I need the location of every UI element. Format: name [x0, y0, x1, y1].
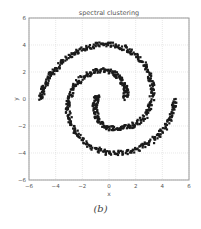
data-point	[153, 142, 155, 144]
data-point	[165, 123, 167, 125]
data-point	[129, 48, 131, 50]
data-point	[127, 149, 129, 151]
data-point	[110, 45, 112, 47]
data-point	[123, 49, 125, 51]
data-point	[83, 142, 85, 144]
data-point	[98, 151, 100, 153]
spectral-clustering-chart: −6−4−20246−6−4−20246 spectral clustering…	[0, 0, 201, 229]
data-point	[94, 68, 96, 70]
data-point	[110, 129, 112, 131]
data-point	[121, 45, 123, 47]
data-point	[62, 61, 64, 63]
x-axis-label: x	[107, 190, 111, 197]
data-point	[144, 146, 146, 148]
data-point	[92, 69, 94, 71]
data-point	[143, 65, 145, 67]
data-point	[102, 67, 104, 69]
data-point	[72, 86, 74, 88]
data-point	[96, 97, 98, 99]
data-point	[85, 45, 87, 47]
data-point	[77, 76, 79, 78]
data-point	[111, 72, 113, 74]
data-point	[95, 45, 97, 47]
data-point	[153, 84, 155, 86]
data-point	[94, 71, 96, 73]
data-point	[58, 66, 60, 68]
data-point	[42, 85, 44, 87]
data-point	[127, 91, 129, 93]
data-point	[136, 120, 138, 122]
data-point	[69, 124, 71, 126]
data-point	[146, 113, 148, 115]
data-point	[172, 100, 174, 102]
x-tick-label: 6	[187, 183, 191, 189]
data-point	[137, 147, 139, 149]
chart-title: spectral clustering	[79, 9, 139, 17]
data-point	[83, 48, 85, 50]
data-point	[150, 108, 152, 110]
data-point	[99, 149, 101, 151]
data-point	[120, 82, 122, 84]
data-point	[69, 122, 71, 124]
data-point	[131, 127, 133, 129]
data-point	[170, 120, 172, 122]
data-point	[139, 150, 141, 152]
data-point	[139, 56, 141, 58]
data-point	[140, 119, 142, 121]
data-point	[68, 102, 70, 104]
data-point	[131, 49, 133, 51]
data-point	[109, 42, 111, 44]
data-point	[127, 153, 129, 155]
y-tick-label: 4	[23, 42, 27, 48]
data-point	[141, 61, 143, 63]
data-point	[126, 88, 128, 90]
figure-caption: (b)	[0, 203, 201, 214]
data-point	[49, 73, 51, 75]
data-point	[124, 99, 126, 101]
data-point	[149, 101, 151, 103]
data-point	[47, 84, 49, 86]
data-point	[97, 101, 99, 103]
data-point	[96, 43, 98, 45]
data-point	[65, 103, 67, 105]
x-tick-label: 0	[107, 183, 111, 189]
data-point	[73, 125, 75, 127]
data-point	[149, 140, 151, 142]
data-point	[97, 72, 99, 74]
data-point	[172, 104, 174, 106]
data-point	[79, 134, 81, 136]
data-point	[82, 137, 84, 139]
data-point	[132, 122, 134, 124]
data-point	[151, 136, 153, 138]
data-point	[80, 82, 82, 84]
data-point	[159, 136, 161, 138]
data-point	[113, 151, 115, 153]
data-point	[168, 122, 170, 124]
data-point	[69, 112, 71, 114]
axis-ticks: −6−4−20246−6−4−20246	[18, 15, 191, 189]
data-point	[147, 144, 149, 146]
data-point	[124, 95, 126, 97]
data-point	[117, 154, 119, 156]
data-point	[75, 79, 77, 81]
data-point	[125, 86, 127, 88]
data-point	[141, 143, 143, 145]
data-point	[148, 107, 150, 109]
data-point	[93, 100, 95, 102]
data-point	[123, 126, 125, 128]
data-point	[165, 127, 167, 129]
data-point	[114, 71, 116, 73]
data-point	[143, 115, 145, 117]
data-point	[92, 46, 94, 48]
data-point	[65, 111, 67, 113]
data-point	[139, 117, 141, 119]
data-point	[134, 53, 136, 55]
data-point	[118, 151, 120, 153]
data-point	[85, 75, 87, 77]
y-tick-label: 0	[23, 96, 27, 102]
data-point	[56, 68, 58, 70]
data-point	[160, 130, 162, 132]
data-point	[137, 123, 139, 125]
data-point	[133, 151, 135, 153]
data-point	[154, 138, 156, 140]
